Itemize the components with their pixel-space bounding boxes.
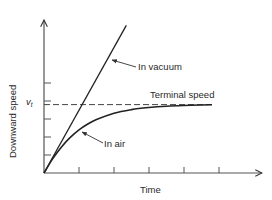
in-vacuum-leader <box>112 60 136 67</box>
in-vacuum-label: In vacuum <box>138 61 182 72</box>
series-in-vacuum <box>44 25 126 173</box>
series-in-air <box>44 105 212 173</box>
in-air-leader <box>82 132 103 143</box>
in-air-label: In air <box>104 138 125 149</box>
terminal-speed-tick-label: vt <box>26 96 34 108</box>
x-axis-label: Time <box>140 184 161 195</box>
y-axis-label: Downward speed <box>7 85 18 158</box>
chart: vt In vacuum Terminal speed In air Time … <box>0 0 272 200</box>
terminal-speed-label: Terminal speed <box>150 89 214 100</box>
